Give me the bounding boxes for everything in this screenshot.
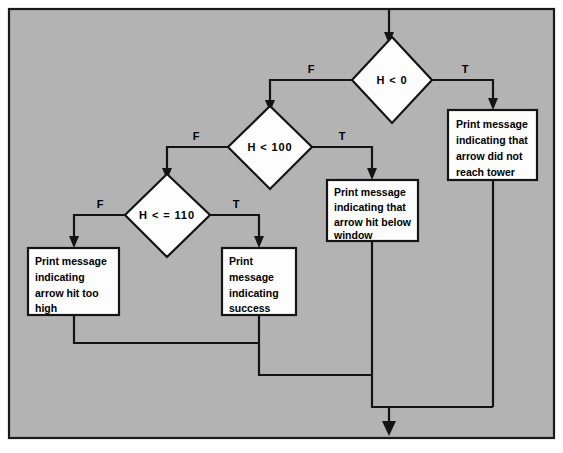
process-not-reach-tower-line-1: Print message <box>456 118 528 130</box>
edge-label-h-lt-0-false: F <box>308 63 315 75</box>
decision-h-le-110-label: H < = 110 <box>139 209 195 221</box>
edge-label-h-lt-100-true: T <box>339 130 346 142</box>
flowchart-canvas: H < 0 H < 100 H < = 110 Print message in… <box>0 0 563 453</box>
process-hit-below-window-line-4: window <box>333 229 373 241</box>
flowchart-svg: H < 0 H < 100 H < = 110 Print message in… <box>0 0 563 453</box>
process-hit-too-high-line-4: high <box>35 302 57 314</box>
process-not-reach-tower[interactable]: Print message indicating that arrow did … <box>448 110 537 180</box>
process-hit-too-high-line-3: arrow hit too <box>35 287 99 299</box>
process-hit-below-window-line-3: arrow hit below <box>334 216 412 228</box>
process-success-line-2: message <box>229 271 274 283</box>
diagram-frame <box>9 9 554 438</box>
edge-label-h-lt-100-false: F <box>193 130 200 142</box>
edge-label-h-lt-0-true: T <box>462 63 469 75</box>
decision-h-lt-0-label: H < 0 <box>376 74 407 86</box>
process-not-reach-tower-line-4: reach tower <box>456 166 515 178</box>
process-hit-below-window-line-2: indicating that <box>334 201 406 213</box>
process-not-reach-tower-line-3: arrow did not <box>456 150 523 162</box>
process-hit-too-high-line-2: indicating <box>35 271 85 283</box>
process-success[interactable]: Print message indicating success <box>222 248 296 315</box>
process-success-line-4: success <box>229 302 271 314</box>
edge-label-h-le-110-true: T <box>233 198 240 210</box>
process-hit-below-window-line-1: Print message <box>334 186 406 198</box>
process-not-reach-tower-line-2: indicating that <box>456 134 528 146</box>
process-hit-below-window[interactable]: Print message indicating that arrow hit … <box>327 180 418 241</box>
process-hit-too-high-line-1: Print message <box>35 255 107 267</box>
process-success-line-1: Print <box>229 255 253 267</box>
decision-h-lt-100-label: H < 100 <box>247 141 292 153</box>
process-success-line-3: indicating <box>229 287 279 299</box>
edge-label-h-le-110-false: F <box>97 198 104 210</box>
process-hit-too-high[interactable]: Print message indicating arrow hit too h… <box>28 248 119 315</box>
